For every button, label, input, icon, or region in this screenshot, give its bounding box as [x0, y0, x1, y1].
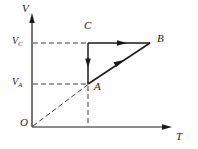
axes-group	[29, 13, 172, 130]
t-axis-label: T	[176, 131, 182, 142]
process-lines-group	[85, 40, 150, 84]
v-axis-arrowhead-icon	[29, 13, 34, 23]
point-label-b: B	[157, 33, 164, 44]
tick-label-va: VA	[12, 77, 22, 87]
tick-label-vc: VC	[12, 36, 23, 46]
tick-label-va-subscript: A	[18, 81, 22, 89]
v-axis-label: V	[22, 3, 29, 14]
process-arrow-c-to-a-icon	[85, 59, 91, 69]
tick-label-vc-subscript: C	[18, 40, 23, 48]
guide-lines-group	[33, 43, 90, 126]
process-arrow-c-to-b-icon	[117, 40, 127, 46]
point-label-a: A	[94, 81, 101, 92]
diagram-canvas	[0, 0, 198, 149]
origin-label: O	[20, 117, 28, 128]
guide-line-origin-through-a	[33, 83, 90, 126]
point-label-c: C	[84, 20, 91, 31]
vt-diagram-figure: V T O VC VA C A B	[0, 0, 198, 149]
t-axis-arrowhead-icon	[162, 124, 172, 129]
